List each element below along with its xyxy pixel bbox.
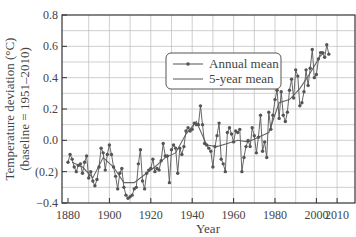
annual-data-point xyxy=(79,162,82,165)
annual-data-point xyxy=(323,56,326,59)
annual-data-point xyxy=(222,162,225,165)
annual-data-point xyxy=(209,150,212,153)
annual-data-point xyxy=(236,131,239,134)
annual-data-point xyxy=(325,43,328,46)
annual-data-point xyxy=(159,159,162,162)
grid xyxy=(62,15,355,203)
y-tick-label: 0.6 xyxy=(43,39,58,53)
annual-data-point xyxy=(232,140,235,143)
annual-data-point xyxy=(186,126,189,129)
annual-data-point xyxy=(282,114,285,117)
annual-data-point xyxy=(118,172,121,175)
x-tick-label: 1940 xyxy=(180,208,204,222)
x-tick-label: 1960 xyxy=(222,208,246,222)
annual-data-point xyxy=(298,104,301,107)
annual-data-point xyxy=(228,126,231,129)
annual-data-point xyxy=(271,114,274,117)
x-tick-label: 1880 xyxy=(56,208,80,222)
annual-data-point xyxy=(108,143,111,146)
annual-data-point xyxy=(226,131,229,134)
annual-data-point xyxy=(153,170,156,173)
annual-data-point xyxy=(263,140,266,143)
annual-data-point xyxy=(280,90,283,93)
annual-data-point xyxy=(246,139,249,142)
annual-data-point xyxy=(242,156,245,159)
annual-data-point xyxy=(87,176,90,179)
annual-data-point xyxy=(205,143,208,146)
annual-data-point xyxy=(75,170,78,173)
annual-data-point xyxy=(81,172,84,175)
annual-data-point xyxy=(251,126,254,129)
annual-data-point xyxy=(215,134,218,137)
annual-data-point xyxy=(296,74,299,77)
annual-data-point xyxy=(265,156,268,159)
annual-data-point xyxy=(174,146,177,149)
annual-data-point xyxy=(97,165,100,168)
x-tick-label: 1920 xyxy=(139,208,163,222)
annual-data-point xyxy=(130,193,133,196)
annual-data-point xyxy=(277,117,280,120)
annual-data-point xyxy=(143,187,146,190)
x-tick-label: 2010 xyxy=(325,208,349,222)
annual-data-point xyxy=(304,68,307,71)
annual-data-point xyxy=(145,172,148,175)
annual-data-point xyxy=(288,89,291,92)
annual-data-point xyxy=(112,165,115,168)
annual-data-point xyxy=(184,129,187,132)
annual-data-point xyxy=(300,101,303,104)
annual-data-point xyxy=(182,145,185,148)
annual-data-point xyxy=(253,134,256,137)
annual-data-point xyxy=(166,154,169,157)
annual-data-point xyxy=(213,145,216,148)
annual-data-point xyxy=(269,128,272,131)
x-tick-label: 1900 xyxy=(97,208,121,222)
annual-data-point xyxy=(124,193,127,196)
y-axis-title-line2: (baseline = 1951–2010) xyxy=(17,47,32,171)
annual-data-point xyxy=(162,142,165,145)
annual-data-point xyxy=(149,167,152,170)
annual-data-point xyxy=(248,145,251,148)
annual-data-point xyxy=(306,84,309,87)
annual-data-point xyxy=(93,184,96,187)
annual-data-point xyxy=(91,179,94,182)
y-tick-label: −0.4 xyxy=(36,196,58,210)
y-tick-label: 0.2 xyxy=(43,102,58,116)
legend-annual-label: Annual mean xyxy=(209,56,279,71)
annual-data-point xyxy=(66,161,69,164)
y-tick-label: 0.4 xyxy=(43,71,58,85)
y-axis-tick-labels: −0.4(0.2)0.00.20.40.60.8 xyxy=(35,8,58,210)
annual-data-point xyxy=(311,48,314,51)
annual-data-point xyxy=(199,104,202,107)
annual-data-point xyxy=(207,146,210,149)
annual-data-point xyxy=(70,157,73,160)
annual-data-point xyxy=(114,175,117,178)
annual-data-point xyxy=(284,120,287,123)
annual-data-point xyxy=(217,121,220,124)
annual-data-point xyxy=(290,78,293,81)
annual-data-point xyxy=(85,154,88,157)
annual-data-point xyxy=(315,73,318,76)
y-axis-title-line1: Temperature deviation (°C) xyxy=(2,38,17,181)
x-axis-title: Year xyxy=(196,221,221,236)
annual-data-point xyxy=(141,179,144,182)
annual-data-point xyxy=(157,168,160,171)
annual-data-point xyxy=(267,110,270,113)
annual-data-point xyxy=(191,128,194,131)
annual-data-point xyxy=(327,52,330,55)
annual-data-point xyxy=(104,168,107,171)
annual-data-point xyxy=(230,132,233,135)
temperature-chart: −0.4(0.2)0.00.20.40.60.8 188019001920194… xyxy=(0,0,356,237)
annual-data-point xyxy=(89,170,92,173)
annual-data-point xyxy=(176,172,179,175)
annual-data-point xyxy=(308,67,311,70)
annual-data-point xyxy=(261,150,264,153)
annual-data-point xyxy=(135,186,138,189)
annual-data-point xyxy=(106,153,109,156)
annual-data-point xyxy=(240,170,243,173)
annual-data-point xyxy=(224,170,227,173)
annual-data-point xyxy=(294,68,297,71)
annual-data-point xyxy=(178,146,181,149)
annual-data-point xyxy=(151,157,154,160)
annual-data-point xyxy=(180,153,183,156)
y-tick-label: (0.2) xyxy=(35,165,58,179)
